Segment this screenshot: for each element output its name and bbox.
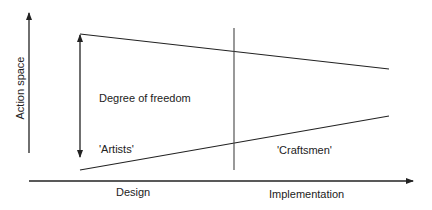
diagram-canvas — [0, 0, 432, 210]
y-axis-label: Action space — [14, 57, 27, 120]
x-axis-label-design: Design — [116, 186, 150, 199]
degree-of-freedom-label: Degree of freedom — [99, 92, 191, 105]
x-axis-label-implementation: Implementation — [269, 188, 344, 201]
artists-label: 'Artists' — [99, 143, 134, 156]
craftsmen-label: 'Craftsmen' — [277, 144, 332, 157]
